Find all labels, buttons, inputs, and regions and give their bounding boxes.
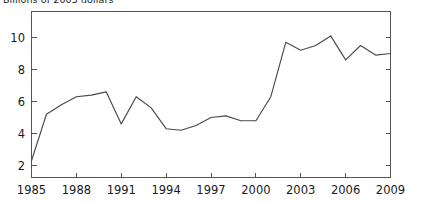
x-axis-label-2009: 2009 — [376, 183, 405, 197]
plot-frame — [32, 12, 391, 178]
x-axis-label-1994: 1994 — [151, 183, 180, 197]
x-axis-label-1997: 1997 — [196, 183, 225, 197]
x-axis-label-1988: 1988 — [62, 183, 91, 197]
chart-figure: Billions of 2005 dollars 10 8 6 4 2 — [0, 0, 421, 204]
x-axis-ticks — [32, 173, 391, 178]
x-axis-label-2006: 2006 — [331, 183, 360, 197]
x-axis-label-2003: 2003 — [286, 183, 315, 197]
x-axis-label-1991: 1991 — [107, 183, 136, 197]
y-axis-label-6: 6 — [18, 95, 25, 109]
x-axis-label-2000: 2000 — [241, 183, 270, 197]
x-axis-labels: 1985 1988 1991 1994 1997 2000 2003 2006 … — [17, 183, 405, 197]
axis-frame-box — [32, 12, 391, 178]
y-axis-label-2: 2 — [18, 159, 25, 173]
y-axis-labels: 10 8 6 4 2 — [10, 31, 25, 173]
x-axis-label-1985: 1985 — [17, 183, 46, 197]
y-axis-label-4: 4 — [18, 127, 25, 141]
data-series-line — [32, 36, 391, 161]
data-series-group — [32, 36, 391, 161]
line-chart-plot: 10 8 6 4 2 1985 1988 1991 1994 1997 2000… — [0, 0, 421, 204]
y-axis-label-10: 10 — [10, 31, 25, 45]
y-axis-label-8: 8 — [18, 63, 25, 77]
y-axis-ticks — [32, 38, 391, 166]
